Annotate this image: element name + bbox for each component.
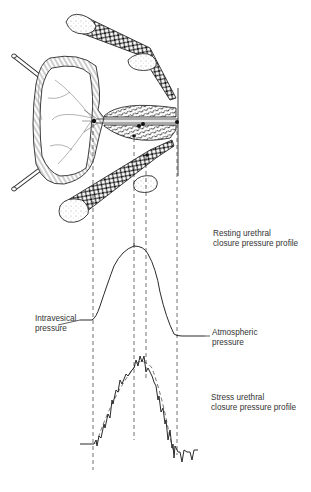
resting-profile-label: Resting urethral closure pressure profil… bbox=[213, 229, 298, 249]
meatus-point bbox=[175, 120, 179, 124]
sphincter-point-lower bbox=[145, 153, 149, 157]
bladder-neck-point bbox=[92, 119, 96, 123]
catheter-upper bbox=[12, 54, 42, 78]
stress-profile-label-line2: closure pressure profile bbox=[211, 403, 296, 413]
intravesical-label-line1: Intravesical bbox=[35, 314, 76, 324]
atmospheric-label-line2: pressure bbox=[212, 338, 258, 348]
mid-urethra-point-a bbox=[137, 124, 141, 128]
atmospheric-label-line1: Atmospheric bbox=[212, 328, 258, 338]
mid-urethra-point-b bbox=[141, 122, 145, 126]
stress-trace bbox=[80, 356, 198, 462]
resting-profile-label-line2: closure pressure profile bbox=[213, 239, 298, 249]
intravesical-label-line2: pressure bbox=[35, 324, 76, 334]
stress-profile-label-line1: Stress urethral bbox=[211, 393, 296, 403]
stress-envelope-dashed bbox=[96, 362, 174, 454]
atmospheric-pressure-label: Atmospheric pressure bbox=[212, 328, 258, 348]
sphincter-point bbox=[132, 134, 136, 138]
anatomy-illustration bbox=[12, 14, 179, 222]
intravesical-pressure-label: Intravesical pressure bbox=[35, 314, 76, 334]
resting-profile-label-line1: Resting urethral bbox=[213, 229, 298, 239]
catheter-lower bbox=[12, 168, 42, 191]
stress-profile-curve bbox=[80, 356, 198, 462]
resting-profile-curve bbox=[80, 240, 205, 336]
stress-profile-label: Stress urethral closure pressure profile bbox=[211, 393, 296, 413]
